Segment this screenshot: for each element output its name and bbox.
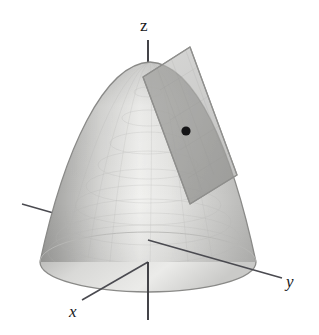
diagram-canvas xyxy=(0,0,319,335)
tangent-plane-diagram: z y x xyxy=(0,0,319,335)
tangent-point xyxy=(181,126,190,135)
z-axis-label: z xyxy=(140,17,148,34)
x-axis-label: x xyxy=(69,303,77,320)
y-axis-label: y xyxy=(286,273,294,290)
